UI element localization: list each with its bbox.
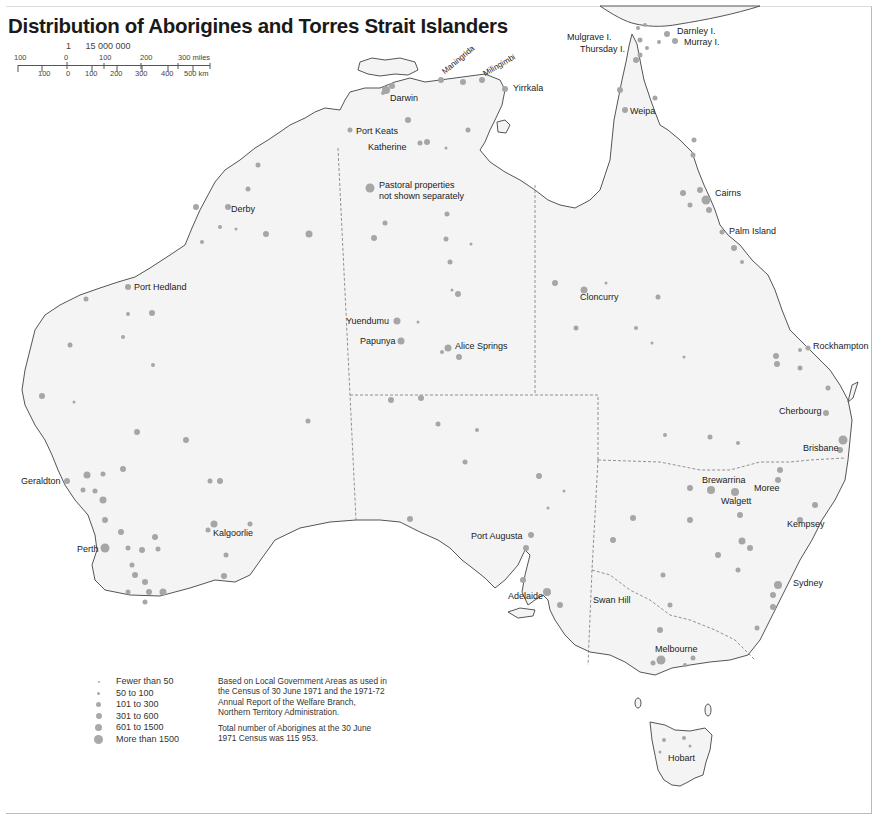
- place-label-murray[interactable]: Murray I.: [684, 38, 720, 47]
- legend-item: 50 to 100: [92, 688, 179, 700]
- dot-icon: [98, 681, 100, 683]
- place-label-port-augusta[interactable]: Port Augusta: [471, 532, 523, 541]
- place-label-palm-island[interactable]: Palm Island: [729, 227, 776, 236]
- place-label-moree[interactable]: Moree: [754, 484, 780, 493]
- fraser-island: [848, 382, 858, 402]
- source-note: Based on Local Government Areas as used …: [218, 676, 388, 750]
- flinders-island: [705, 704, 711, 716]
- legend-item: More than 1500: [92, 734, 179, 746]
- groote-eylandt: [497, 120, 510, 133]
- place-label-brisbane[interactable]: Brisbane: [803, 444, 839, 453]
- legend: Fewer than 50 50 to 100 101 to 300 301 t…: [92, 676, 179, 745]
- place-label-port-keats[interactable]: Port Keats: [356, 127, 398, 136]
- kangaroo-island: [508, 608, 535, 618]
- place-label-swan-hill[interactable]: Swan Hill: [593, 596, 631, 605]
- legend-item: Fewer than 50: [92, 676, 179, 688]
- total-text: Total number of Aborigines at the 30 Jun…: [218, 723, 388, 744]
- place-label-mulgrave[interactable]: Mulgrave I.: [567, 33, 612, 42]
- tiwi-islands: [358, 58, 418, 76]
- place-label-kalgoorlie[interactable]: Kalgoorlie: [213, 529, 253, 538]
- place-label-brewarrina[interactable]: Brewarrina: [702, 476, 746, 485]
- dot-icon: [97, 692, 100, 695]
- place-label-alice-springs[interactable]: Alice Springs: [455, 342, 508, 351]
- place-label-melbourne[interactable]: Melbourne: [655, 645, 698, 654]
- legend-item: 601 to 1500: [92, 722, 179, 734]
- place-label-papunya[interactable]: Papunya: [360, 337, 396, 346]
- scale-ticks: [18, 62, 210, 72]
- dot-icon: [95, 724, 102, 731]
- mainland-australia: [22, 34, 852, 675]
- king-island: [635, 698, 641, 708]
- legend-label: Fewer than 50: [116, 676, 174, 686]
- place-label-thursday[interactable]: Thursday I.: [580, 45, 625, 54]
- place-label-cloncurry[interactable]: Cloncurry: [580, 293, 619, 302]
- legend-label: 601 to 1500: [116, 722, 164, 732]
- place-label-perth[interactable]: Perth: [77, 545, 99, 554]
- legend-item: 301 to 600: [92, 711, 179, 723]
- dot-icon: [96, 713, 102, 719]
- legend-label: More than 1500: [116, 734, 179, 744]
- new-guinea-landmass: [600, 6, 760, 26]
- place-label-cherbourg[interactable]: Cherbourg: [779, 407, 822, 416]
- dot-icon: [96, 702, 101, 707]
- place-label-geraldton[interactable]: Geraldton: [21, 477, 61, 486]
- legend-label: 301 to 600: [116, 711, 159, 721]
- source-text: Based on Local Government Areas as used …: [218, 676, 388, 717]
- place-label-yirrkala[interactable]: Yirrkala: [513, 84, 543, 93]
- place-label-weipa[interactable]: Weipa: [630, 107, 655, 116]
- pastoral-note-line2: not shown separately: [379, 192, 464, 201]
- place-label-adelaide[interactable]: Adelaide: [508, 592, 543, 601]
- place-label-rockhampton[interactable]: Rockhampton: [813, 342, 869, 351]
- place-label-darwin[interactable]: Darwin: [390, 94, 418, 103]
- place-label-darnley[interactable]: Darnley I.: [677, 27, 716, 36]
- place-label-kempsey[interactable]: Kempsey: [787, 520, 825, 529]
- legend-label: 101 to 300: [116, 699, 159, 709]
- place-label-sydney[interactable]: Sydney: [793, 579, 823, 588]
- legend-item: 101 to 300: [92, 699, 179, 711]
- place-label-derby[interactable]: Derby: [231, 205, 255, 214]
- pastoral-note-line1: Pastoral properties: [379, 181, 455, 190]
- place-label-port-hedland[interactable]: Port Hedland: [134, 283, 187, 292]
- place-label-hobart[interactable]: Hobart: [668, 754, 695, 763]
- place-label-walgett[interactable]: Walgett: [721, 497, 751, 506]
- place-label-katherine[interactable]: Katherine: [368, 143, 407, 152]
- place-label-cairns[interactable]: Cairns: [715, 189, 741, 198]
- dot-icon: [94, 735, 103, 744]
- legend-label: 50 to 100: [116, 688, 154, 698]
- place-label-yuendumu[interactable]: Yuendumu: [346, 317, 389, 326]
